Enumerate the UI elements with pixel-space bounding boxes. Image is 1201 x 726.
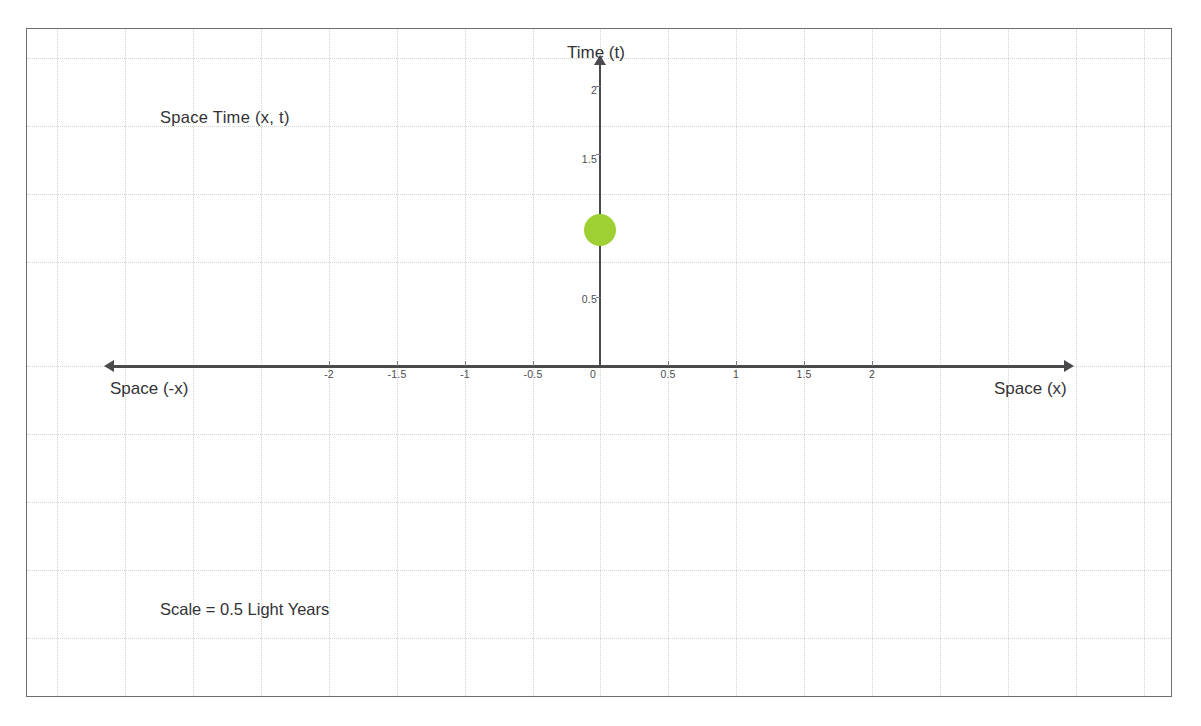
x-axis-positive-title: Space (x) (994, 379, 1067, 399)
origin-label: 0 (590, 368, 596, 380)
spacetime-diagram-page: -2 -1.5 -1 -0.5 0 0.5 1 1.5 2 0.5 1 1.5 … (0, 0, 1201, 726)
x-tick-label-2: 2 (869, 368, 875, 380)
x-axis-tick (668, 361, 669, 366)
x-tick-label-1: 1 (733, 368, 739, 380)
y-axis-title: Time (t) (567, 43, 625, 63)
x-axis-left-arrow-icon (104, 360, 114, 372)
y-tick-label-2: 2 (591, 84, 597, 96)
x-axis-tick (872, 361, 873, 366)
x-axis-right-arrow-icon (1064, 360, 1074, 372)
x-axis-tick (736, 361, 737, 366)
x-tick-label-0p5: 0.5 (660, 368, 675, 380)
x-axis-negative-title: Space (-x) (110, 379, 188, 399)
event-marker-dot (584, 214, 616, 246)
x-tick-label-neg2: -2 (324, 368, 334, 380)
scale-annotation: Scale = 0.5 Light Years (160, 600, 329, 619)
x-axis-tick (465, 361, 466, 366)
x-tick-label-neg1p5: -1.5 (388, 368, 407, 380)
x-tick-label-neg1: -1 (460, 368, 470, 380)
y-tick-label-1p5: 1.5 (582, 153, 597, 165)
x-tick-label-neg0p5: -0.5 (524, 368, 543, 380)
x-axis-tick (329, 361, 330, 366)
spacetime-annotation: Space Time (x, t) (160, 108, 290, 127)
x-axis-tick (533, 361, 534, 366)
y-tick-label-0p5: 0.5 (582, 293, 597, 305)
spacetime-annotation-text: Space Time (x, t) (160, 108, 290, 126)
x-axis-tick (397, 361, 398, 366)
x-tick-label-1p5: 1.5 (796, 368, 811, 380)
x-axis-tick (804, 361, 805, 366)
